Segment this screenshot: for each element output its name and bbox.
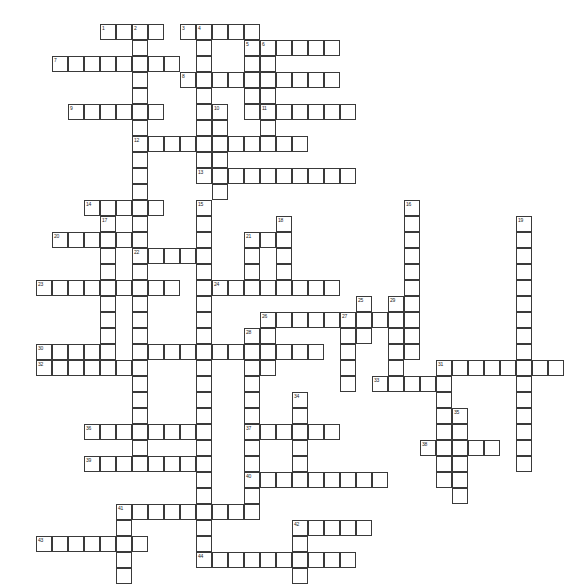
crossword-cell[interactable]	[292, 568, 308, 584]
crossword-cell[interactable]	[148, 424, 164, 440]
crossword-cell[interactable]	[84, 280, 100, 296]
crossword-cell[interactable]	[324, 168, 340, 184]
crossword-cell[interactable]	[228, 504, 244, 520]
crossword-cell[interactable]	[68, 56, 84, 72]
crossword-cell-numbered-21[interactable]: 21	[244, 232, 260, 248]
crossword-cell[interactable]	[340, 520, 356, 536]
crossword-cell[interactable]	[244, 488, 260, 504]
crossword-cell[interactable]	[372, 472, 388, 488]
crossword-cell[interactable]	[164, 504, 180, 520]
crossword-cell[interactable]	[244, 360, 260, 376]
crossword-cell[interactable]	[148, 104, 164, 120]
crossword-cell[interactable]	[244, 72, 260, 88]
crossword-cell[interactable]	[132, 104, 148, 120]
crossword-cell[interactable]	[356, 328, 372, 344]
crossword-cell[interactable]	[276, 136, 292, 152]
crossword-cell[interactable]	[388, 360, 404, 376]
crossword-cell[interactable]	[324, 72, 340, 88]
crossword-cell[interactable]	[196, 424, 212, 440]
crossword-cell[interactable]	[116, 24, 132, 40]
crossword-cell[interactable]	[132, 376, 148, 392]
crossword-cell[interactable]	[260, 72, 276, 88]
crossword-cell[interactable]	[292, 408, 308, 424]
crossword-cell[interactable]	[260, 328, 276, 344]
crossword-cell[interactable]	[180, 344, 196, 360]
crossword-cell[interactable]	[132, 88, 148, 104]
crossword-cell-numbered-10[interactable]: 10	[212, 104, 228, 120]
crossword-cell[interactable]	[292, 136, 308, 152]
crossword-cell[interactable]	[196, 456, 212, 472]
crossword-cell[interactable]	[404, 248, 420, 264]
crossword-cell[interactable]	[212, 552, 228, 568]
crossword-cell[interactable]	[196, 440, 212, 456]
crossword-cell[interactable]	[292, 72, 308, 88]
crossword-cell[interactable]	[356, 472, 372, 488]
crossword-cell[interactable]	[260, 232, 276, 248]
crossword-cell[interactable]	[324, 104, 340, 120]
crossword-cell[interactable]	[116, 56, 132, 72]
crossword-cell[interactable]	[356, 312, 372, 328]
crossword-cell[interactable]	[116, 552, 132, 568]
crossword-cell[interactable]	[516, 344, 532, 360]
crossword-cell[interactable]	[244, 376, 260, 392]
crossword-cell[interactable]	[116, 104, 132, 120]
crossword-cell[interactable]	[132, 504, 148, 520]
crossword-cell[interactable]	[196, 536, 212, 552]
crossword-cell[interactable]	[164, 424, 180, 440]
crossword-cell[interactable]	[244, 56, 260, 72]
crossword-cell[interactable]	[84, 344, 100, 360]
crossword-cell[interactable]	[260, 136, 276, 152]
crossword-cell[interactable]	[244, 344, 260, 360]
crossword-cell[interactable]	[452, 424, 468, 440]
crossword-cell[interactable]	[164, 456, 180, 472]
crossword-cell[interactable]	[180, 136, 196, 152]
crossword-cell[interactable]	[196, 88, 212, 104]
crossword-cell[interactable]	[148, 456, 164, 472]
crossword-cell-numbered-27[interactable]: 27	[340, 312, 356, 328]
crossword-cell[interactable]	[244, 552, 260, 568]
crossword-cell[interactable]	[340, 376, 356, 392]
crossword-cell[interactable]	[340, 168, 356, 184]
crossword-cell[interactable]	[452, 456, 468, 472]
crossword-cell-numbered-4[interactable]: 4	[196, 24, 212, 40]
crossword-cell[interactable]	[516, 312, 532, 328]
crossword-cell[interactable]	[468, 360, 484, 376]
crossword-cell[interactable]	[132, 440, 148, 456]
crossword-cell[interactable]	[228, 136, 244, 152]
crossword-cell[interactable]	[116, 280, 132, 296]
crossword-cell[interactable]	[164, 344, 180, 360]
crossword-cell-numbered-35[interactable]: 35	[452, 408, 468, 424]
crossword-cell[interactable]	[436, 424, 452, 440]
crossword-cell[interactable]	[132, 120, 148, 136]
crossword-cell[interactable]	[228, 168, 244, 184]
crossword-cell[interactable]	[100, 296, 116, 312]
crossword-cell[interactable]	[196, 104, 212, 120]
crossword-cell[interactable]	[516, 424, 532, 440]
crossword-cell[interactable]	[164, 280, 180, 296]
crossword-cell[interactable]	[244, 504, 260, 520]
crossword-cell[interactable]	[100, 264, 116, 280]
crossword-cell[interactable]	[548, 360, 564, 376]
crossword-cell[interactable]	[132, 56, 148, 72]
crossword-cell[interactable]	[116, 232, 132, 248]
crossword-cell[interactable]	[228, 344, 244, 360]
crossword-cell-numbered-16[interactable]: 16	[404, 200, 420, 216]
crossword-cell[interactable]	[324, 312, 340, 328]
crossword-cell[interactable]	[516, 392, 532, 408]
crossword-cell[interactable]	[276, 264, 292, 280]
crossword-cell[interactable]	[228, 24, 244, 40]
crossword-cell[interactable]	[324, 424, 340, 440]
crossword-cell[interactable]	[196, 408, 212, 424]
crossword-cell[interactable]	[276, 232, 292, 248]
crossword-cell[interactable]	[84, 360, 100, 376]
crossword-cell[interactable]	[324, 40, 340, 56]
crossword-cell[interactable]	[516, 456, 532, 472]
crossword-cell[interactable]	[260, 120, 276, 136]
crossword-cell[interactable]	[132, 216, 148, 232]
crossword-cell[interactable]	[196, 232, 212, 248]
crossword-cell[interactable]	[164, 136, 180, 152]
crossword-cell[interactable]	[292, 344, 308, 360]
crossword-cell-numbered-23[interactable]: 23	[36, 280, 52, 296]
crossword-cell[interactable]	[244, 248, 260, 264]
crossword-cell[interactable]	[404, 280, 420, 296]
